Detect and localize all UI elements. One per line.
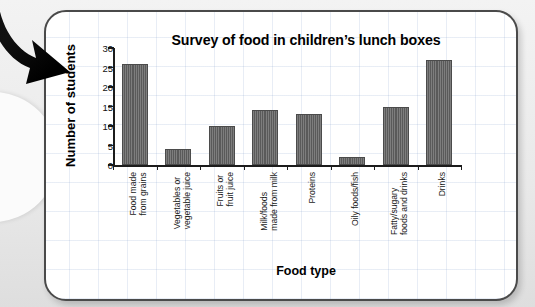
x-tick xyxy=(113,165,114,170)
x-category-label: Fruits orfruit juice xyxy=(216,172,235,206)
bar xyxy=(209,126,235,165)
x-tick xyxy=(461,165,462,170)
x-tick xyxy=(418,165,419,170)
y-tick-label: 5 xyxy=(108,140,113,151)
y-tick-label: 25 xyxy=(102,62,113,73)
chart-card: Survey of food in children’s lunch boxes… xyxy=(44,10,518,301)
x-tick xyxy=(157,165,158,170)
plot-area: 051015202530 Food madefrom grainsVegetab… xyxy=(113,48,461,165)
x-tick xyxy=(331,165,332,170)
x-category-label: Drinks xyxy=(438,172,448,196)
x-category-label: Fatty/sugaryfoods and drinks xyxy=(390,172,409,235)
bar xyxy=(383,107,409,166)
bar xyxy=(426,60,452,165)
y-tick-label: 10 xyxy=(102,121,113,132)
y-tick-label: 20 xyxy=(102,82,113,93)
bar xyxy=(165,149,191,165)
x-category-label: Proteins xyxy=(308,172,318,204)
y-tick-label: 30 xyxy=(102,43,113,54)
x-tick xyxy=(244,165,245,170)
x-axis-title: Food type xyxy=(106,264,506,278)
bar xyxy=(296,114,322,165)
x-category-label: Vegetables orvegetable juice xyxy=(173,172,192,229)
x-tick xyxy=(287,165,288,170)
y-tick-label: 15 xyxy=(102,101,113,112)
x-category-label: Food madefrom grains xyxy=(129,172,148,215)
bar xyxy=(252,110,278,165)
y-axis-title: Number of students xyxy=(63,26,78,186)
bar-chart: Survey of food in children’s lunch boxes… xyxy=(46,12,516,299)
x-category-label: Oily foods/fish xyxy=(351,172,361,226)
x-tick xyxy=(200,165,201,170)
x-category-label: Milk/foodsmade from milk xyxy=(260,172,279,231)
chart-title: Survey of food in children’s lunch boxes xyxy=(106,32,506,48)
bar xyxy=(339,157,365,165)
x-tick xyxy=(374,165,375,170)
bar xyxy=(122,64,148,165)
